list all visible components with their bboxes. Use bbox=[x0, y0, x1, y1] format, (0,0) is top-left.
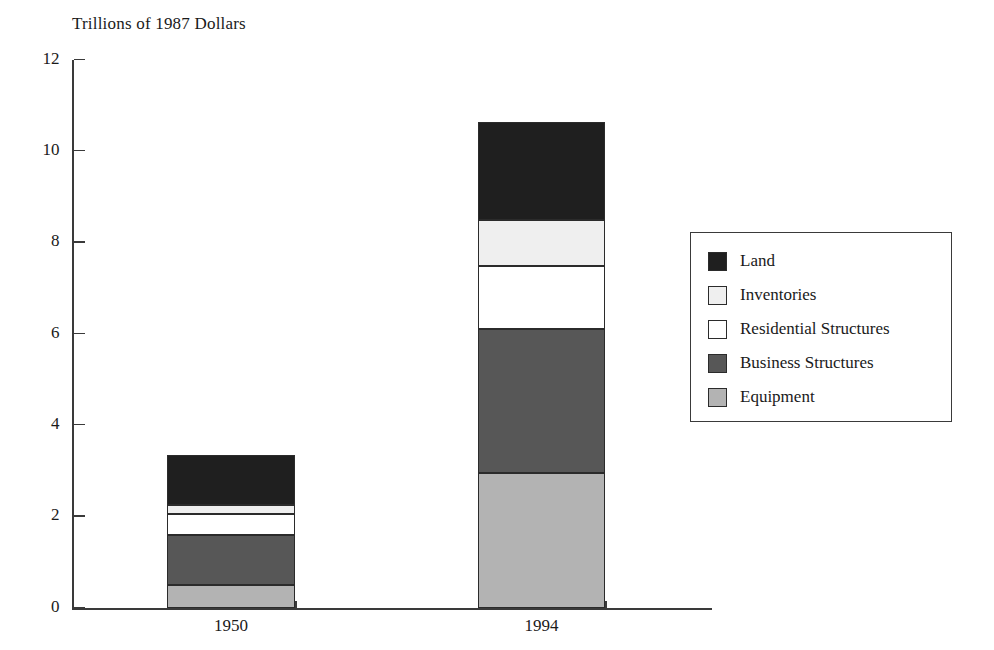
bar-segment-1994-land[interactable] bbox=[478, 122, 605, 220]
y-tick-label-4: 4 bbox=[51, 413, 60, 435]
plot-area: 024681012 19501994 bbox=[72, 60, 712, 608]
y-axis-line bbox=[72, 60, 74, 608]
y-tick-label-6: 6 bbox=[51, 322, 60, 344]
bar-segment-1994-residential-structures[interactable] bbox=[478, 266, 605, 330]
legend-swatch-business-structures bbox=[708, 354, 727, 373]
y-tick-6: 6 bbox=[74, 333, 85, 335]
legend-label-land: Land bbox=[740, 251, 775, 271]
legend-label-inventories: Inventories bbox=[740, 285, 816, 305]
legend-label-business-structures: Business Structures bbox=[740, 353, 874, 373]
y-tick-label-10: 10 bbox=[43, 139, 60, 161]
legend-item-equipment[interactable]: Equipment bbox=[708, 380, 951, 414]
bar-segment-1950-equipment[interactable] bbox=[167, 585, 295, 608]
x-tick-end-1950 bbox=[295, 601, 297, 610]
legend-swatch-residential-structures bbox=[708, 320, 727, 339]
y-tick-10: 10 bbox=[74, 150, 85, 152]
legend-swatch-inventories bbox=[708, 286, 727, 305]
x-tick-end-1994 bbox=[605, 601, 607, 610]
y-tick-2: 2 bbox=[74, 515, 85, 517]
bar-segment-1994-equipment[interactable] bbox=[478, 473, 605, 608]
legend-label-equipment: Equipment bbox=[740, 387, 815, 407]
y-tick-label-0: 0 bbox=[51, 596, 60, 618]
stacked-bar-chart: Trillions of 1987 Dollars 024681012 1950… bbox=[0, 0, 994, 650]
bar-segment-1994-inventories[interactable] bbox=[478, 220, 605, 266]
legend-item-residential-structures[interactable]: Residential Structures bbox=[708, 312, 951, 346]
legend-item-business-structures[interactable]: Business Structures bbox=[708, 346, 951, 380]
legend-item-land[interactable]: Land bbox=[708, 244, 951, 278]
legend-swatch-land bbox=[708, 252, 727, 271]
y-tick-12: 12 bbox=[74, 59, 85, 61]
legend-item-inventories[interactable]: Inventories bbox=[708, 278, 951, 312]
y-tick-label-8: 8 bbox=[51, 230, 60, 252]
bar-segment-1950-business-structures[interactable] bbox=[167, 535, 295, 585]
chart-title: Trillions of 1987 Dollars bbox=[72, 14, 246, 34]
bar-segment-1950-residential-structures[interactable] bbox=[167, 514, 295, 535]
y-tick-label-2: 2 bbox=[51, 504, 60, 526]
bar-1950[interactable] bbox=[167, 60, 295, 608]
legend-label-residential-structures: Residential Structures bbox=[740, 319, 890, 339]
y-tick-0: 0 bbox=[74, 607, 85, 609]
bar-segment-1994-business-structures[interactable] bbox=[478, 329, 605, 473]
y-tick-4: 4 bbox=[74, 424, 85, 426]
legend-swatch-equipment bbox=[708, 388, 727, 407]
bar-segment-1950-inventories[interactable] bbox=[167, 505, 295, 514]
y-tick-label-12: 12 bbox=[43, 48, 60, 70]
bar-segment-1950-land[interactable] bbox=[167, 455, 295, 505]
y-tick-8: 8 bbox=[74, 241, 85, 243]
x-category-label-1950: 1950 bbox=[167, 616, 295, 636]
bar-1994[interactable] bbox=[478, 60, 605, 608]
chart-legend: LandInventoriesResidential StructuresBus… bbox=[690, 232, 952, 422]
x-category-label-1994: 1994 bbox=[478, 616, 605, 636]
